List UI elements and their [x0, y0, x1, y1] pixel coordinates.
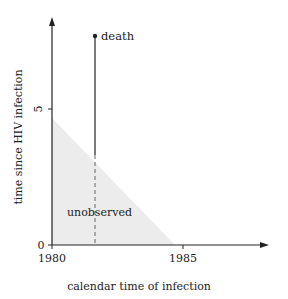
y-tick-label-0: 0: [38, 239, 45, 252]
y-axis-arrow-icon: [49, 17, 55, 26]
x-axis-label: calendar time of infection: [67, 280, 211, 293]
y-tick-label-5: 5: [32, 106, 45, 113]
region-label: unobserved: [67, 206, 132, 219]
unobserved-region: [52, 118, 175, 245]
y-axis-label: time since HIV infection: [12, 69, 25, 204]
x-axis-arrow-icon: [260, 242, 269, 248]
event-label: death: [101, 29, 135, 43]
x-tick-label-1985: 1985: [169, 252, 197, 265]
death-point-icon: [93, 34, 97, 38]
x-tick-label-1980: 1980: [38, 252, 66, 265]
lexis-diagram: death unobserved 5 0 1980 1985 calendar …: [0, 0, 288, 299]
